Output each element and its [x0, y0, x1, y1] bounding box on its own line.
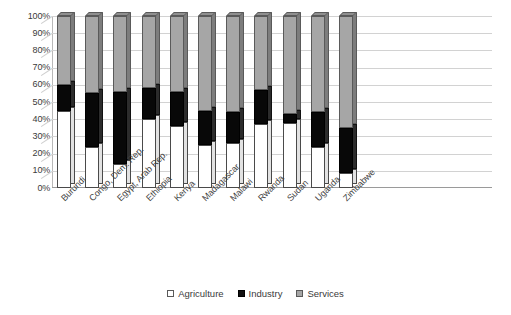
y-axis-tick-label: 50%	[4, 98, 50, 107]
bar-column[interactable]	[339, 16, 357, 188]
legend-item[interactable]: Industry	[238, 288, 283, 299]
bar-segment-ind[interactable]	[57, 85, 71, 111]
bar-segment-side-agri	[240, 139, 244, 184]
bar-segment-svc[interactable]	[170, 16, 184, 92]
bar-segment-svc[interactable]	[254, 16, 268, 90]
bar-segment-side-agri	[212, 141, 216, 184]
bar-segment-ind[interactable]	[170, 92, 184, 126]
bar-segment-ind[interactable]	[85, 93, 99, 146]
bar-segment-side-ind	[156, 84, 160, 115]
bar-segment-ind[interactable]	[339, 128, 353, 173]
bar-segment-ind[interactable]	[142, 88, 156, 119]
legend-label: Services	[307, 288, 343, 299]
bar-segment-side-svc	[99, 12, 103, 89]
bar-segment-svc[interactable]	[85, 16, 99, 93]
y-axis-tick-label: 60%	[4, 80, 50, 89]
bar-segment-ind[interactable]	[254, 90, 268, 124]
bar-segment-side-svc	[127, 12, 131, 88]
bar-segment-side-svc	[71, 12, 75, 81]
bar-segment-svc[interactable]	[283, 16, 297, 114]
legend-swatch-ind	[238, 290, 245, 297]
bar-segment-side-ind	[184, 88, 188, 122]
bar-stack	[283, 16, 297, 188]
bar-stack	[170, 16, 184, 188]
bar-segment-svc[interactable]	[113, 16, 127, 92]
y-axis-tick-label: 90%	[4, 29, 50, 38]
bar-segment-side-ind	[99, 89, 103, 142]
bar-column[interactable]	[311, 16, 329, 188]
bar-segment-side-agri	[325, 143, 329, 184]
bar-column[interactable]	[254, 16, 272, 188]
bar-segment-side-svc	[240, 12, 244, 108]
bar-segment-side-svc	[297, 12, 301, 110]
bar-stack	[311, 16, 325, 188]
bar-segment-side-svc	[325, 12, 329, 108]
bar-segment-side-agri	[297, 119, 301, 184]
legend-swatch-svc	[296, 290, 303, 297]
bar-segment-ind[interactable]	[198, 111, 212, 145]
bar-segment-side-svc	[156, 12, 160, 84]
bar-segment-side-agri	[156, 115, 160, 184]
bar-segment-side-svc	[184, 12, 188, 88]
chart-legend: AgricultureIndustryServices	[0, 288, 511, 299]
bar-segment-side-svc	[268, 12, 272, 86]
bar-column[interactable]	[170, 16, 188, 188]
bar-segment-svc[interactable]	[339, 16, 353, 128]
x-axis-labels: BurundiCongo, Dem. Rep.Egypt, Arab Rep.E…	[0, 190, 511, 270]
bar-segment-agri[interactable]	[57, 111, 71, 188]
bar-segment-svc[interactable]	[57, 16, 71, 85]
y-axis-tick-label: 40%	[4, 115, 50, 124]
legend-label: Industry	[249, 288, 283, 299]
y-axis-tick-label: 20%	[4, 149, 50, 158]
bar-segment-side-svc	[212, 12, 216, 107]
bar-stack	[254, 16, 268, 188]
y-axis-tick-label: 80%	[4, 46, 50, 55]
bar-segment-agri[interactable]	[254, 124, 268, 188]
bar-segment-side-ind	[353, 124, 357, 169]
bar-segment-agri[interactable]	[198, 145, 212, 188]
bar-segment-side-ind	[212, 107, 216, 141]
bar-stack	[57, 16, 71, 188]
y-axis: 100%90%80%70%60%50%40%30%20%10%0%	[0, 0, 50, 200]
bar-segment-svc[interactable]	[198, 16, 212, 111]
bar-segment-side-svc	[353, 12, 357, 124]
bar-segment-ind[interactable]	[226, 112, 240, 143]
bar-segment-ind[interactable]	[113, 92, 127, 164]
bar-segment-side-ind	[127, 88, 131, 160]
bar-segment-side-agri	[268, 120, 272, 184]
bar-segment-side-ind	[240, 108, 244, 139]
legend-item[interactable]: Services	[296, 288, 343, 299]
bar-stack	[198, 16, 212, 188]
legend-swatch-agri	[167, 290, 174, 297]
bar-column[interactable]	[57, 16, 75, 188]
bar-segment-agri[interactable]	[311, 147, 325, 188]
bar-segment-svc[interactable]	[142, 16, 156, 88]
y-axis-tick-label: 70%	[4, 63, 50, 72]
y-axis-tick-label: 10%	[4, 166, 50, 175]
bar-segment-side-ind	[71, 81, 75, 107]
bar-column[interactable]	[283, 16, 301, 188]
bar-segment-ind[interactable]	[311, 112, 325, 146]
legend-label: Agriculture	[178, 288, 223, 299]
bar-segment-side-ind	[297, 110, 301, 119]
legend-item[interactable]: Agriculture	[167, 288, 223, 299]
bar-segment-ind[interactable]	[283, 114, 297, 123]
bar-stack	[85, 16, 99, 188]
bar-segment-side-agri	[71, 107, 75, 184]
bar-series-layer	[52, 16, 492, 188]
bar-segment-svc[interactable]	[311, 16, 325, 112]
y-axis-tick-label: 30%	[4, 132, 50, 141]
y-axis-tick-label: 100%	[4, 12, 50, 21]
bar-segment-side-agri	[184, 122, 188, 184]
bar-segment-side-ind	[268, 86, 272, 120]
bar-column[interactable]	[198, 16, 216, 188]
bar-column[interactable]	[85, 16, 103, 188]
stacked-bar-chart: 100%90%80%70%60%50%40%30%20%10%0% Burund…	[0, 0, 511, 315]
bar-segment-svc[interactable]	[226, 16, 240, 112]
bar-segment-side-agri	[99, 143, 103, 184]
bar-stack	[339, 16, 353, 188]
bar-segment-side-ind	[325, 108, 329, 142]
